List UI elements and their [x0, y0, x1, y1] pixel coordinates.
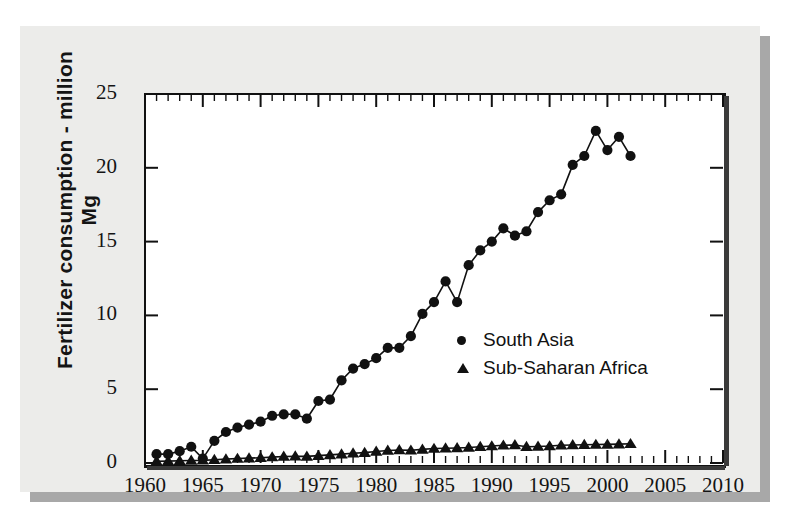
y-tick-label: 15: [75, 228, 117, 253]
y-tick-label: 25: [75, 80, 117, 105]
circle-marker-icon: [457, 336, 483, 345]
plot-frame-bottom-edge: [147, 466, 725, 470]
legend-label-sub-saharan-africa: Sub-Saharan Africa: [483, 357, 648, 379]
y-tick-label: 20: [75, 154, 117, 179]
y-tick-label: 10: [75, 301, 117, 326]
triangle-marker-icon: [457, 363, 483, 373]
y-tick-label: 5: [75, 375, 117, 400]
legend-item-south-asia: South Asia: [457, 326, 648, 354]
plot-frame-right-edge: [724, 96, 729, 466]
figure-panel: Fertilizer consumption - million Mg 0510…: [20, 26, 760, 492]
figure-root: Fertilizer consumption - million Mg 0510…: [0, 0, 789, 531]
plot-area: [144, 93, 726, 468]
legend-item-sub-saharan-africa: Sub-Saharan Africa: [457, 354, 648, 382]
legend: South Asia Sub-Saharan Africa: [457, 326, 648, 382]
x-tick-label: 2010: [688, 473, 758, 498]
legend-label-south-asia: South Asia: [483, 329, 574, 351]
y-tick-label: 0: [75, 449, 117, 474]
